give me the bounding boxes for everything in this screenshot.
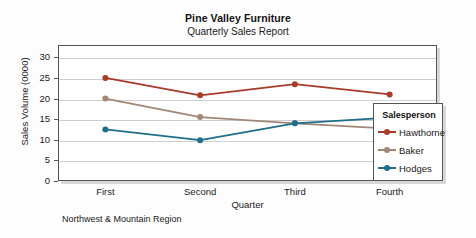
legend-swatch-icon [378, 145, 396, 155]
x-tick-label: Fourth [376, 186, 403, 197]
footnote: Northwest & Mountain Region [62, 214, 182, 224]
gridline [59, 79, 436, 80]
legend-label: Hawthorne [399, 127, 445, 138]
gridline [59, 100, 436, 101]
legend-swatch-icon [378, 127, 396, 137]
legend-title: Salesperson [374, 110, 444, 120]
legend-item-baker[interactable]: Baker [378, 142, 424, 158]
gridline [59, 58, 436, 59]
y-tick-label: 30 [28, 52, 50, 62]
legend: Salesperson HawthorneBakerHodges [373, 103, 443, 181]
x-tick-label: Third [284, 186, 306, 197]
legend-label: Hodges [399, 163, 432, 174]
y-tick-label: 5 [28, 155, 50, 165]
chart-subtitle: Quarterly Sales Report [0, 26, 476, 37]
legend-item-hodges[interactable]: Hodges [378, 160, 432, 176]
x-tick-label: First [96, 186, 114, 197]
chart-container: Pine Valley Furniture Quarterly Sales Re… [0, 0, 476, 238]
y-tick-label: 15 [28, 114, 50, 124]
legend-swatch-icon [378, 163, 396, 173]
x-axis-title: Quarter [58, 199, 437, 210]
x-tick-label: Second [184, 186, 216, 197]
y-tick-label: 10 [28, 135, 50, 145]
legend-item-hawthorne[interactable]: Hawthorne [378, 124, 445, 140]
y-tick-label: 25 [28, 73, 50, 83]
y-tick-label: 20 [28, 94, 50, 104]
y-tick-mark [54, 181, 58, 182]
legend-label: Baker [399, 145, 424, 156]
chart-title: Pine Valley Furniture [0, 12, 476, 24]
y-tick-label: 0 [28, 176, 50, 186]
